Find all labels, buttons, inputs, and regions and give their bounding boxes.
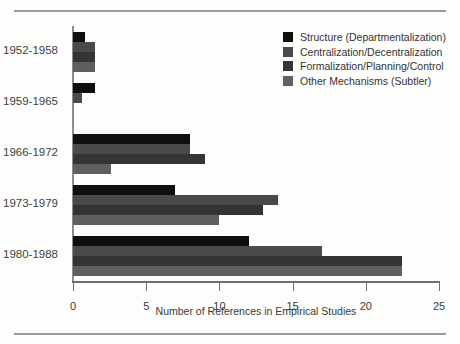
bar-group: 1980-1988 (73, 236, 439, 276)
bar (73, 266, 402, 276)
bar (73, 93, 82, 103)
bar (73, 256, 402, 266)
y-category-label: 1973-1979 (3, 197, 67, 209)
bar (73, 32, 85, 42)
figure-top-rule (14, 10, 446, 12)
chart-legend: Structure (Departmentalization)Centraliz… (283, 32, 446, 86)
x-tick-15 (293, 283, 294, 291)
bar-group: 1966-1972 (73, 134, 439, 174)
y-category-label: 1952-1958 (3, 44, 67, 56)
legend-swatch-icon (283, 76, 293, 86)
legend-item: Structure (Departmentalization) (283, 32, 446, 43)
bar-group: 1959-1965 (73, 83, 439, 123)
legend-swatch-icon (283, 61, 293, 71)
legend-item: Other Mechanisms (Subtler) (283, 76, 446, 87)
bar (73, 195, 278, 205)
bar (73, 42, 95, 52)
legend-swatch-icon (283, 32, 293, 42)
legend-label: Formalization/Planning/Control (300, 61, 444, 72)
chart-figure: 0510152025 1952-19581959-19651966-197219… (0, 0, 460, 344)
x-tick-5 (146, 283, 147, 291)
bar (73, 83, 95, 93)
y-category-label: 1966-1972 (3, 146, 67, 158)
bar-group: 1973-1979 (73, 185, 439, 225)
bar (73, 215, 219, 225)
legend-swatch-icon (283, 47, 293, 57)
bar (73, 185, 175, 195)
bar (73, 246, 322, 256)
bar (73, 62, 95, 72)
bar (73, 164, 111, 174)
bar (73, 52, 95, 62)
x-axis-line (72, 281, 440, 283)
bar (73, 205, 263, 215)
legend-label: Centralization/Decentralization (300, 47, 442, 58)
figure-bottom-rule (14, 333, 446, 335)
legend-label: Other Mechanisms (Subtler) (300, 76, 431, 87)
legend-label: Structure (Departmentalization) (300, 32, 446, 43)
bar (73, 134, 190, 144)
legend-item: Formalization/Planning/Control (283, 61, 446, 72)
x-tick-10 (219, 283, 220, 291)
y-category-label: 1959-1965 (3, 95, 67, 107)
x-tick-20 (366, 283, 367, 291)
x-tick-0 (73, 283, 74, 291)
bar (73, 144, 190, 154)
x-axis-title: Number of References in Empirical Studie… (73, 305, 439, 317)
x-tick-25 (439, 283, 440, 291)
y-category-label: 1980-1988 (3, 248, 67, 260)
legend-item: Centralization/Decentralization (283, 47, 446, 58)
bar (73, 236, 249, 246)
bar (73, 154, 205, 164)
